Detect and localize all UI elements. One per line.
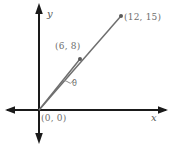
angle-theta-label: θ [72, 80, 77, 88]
diagram-canvas [0, 0, 173, 147]
x-axis-right-arrowhead [158, 106, 168, 114]
y-axis-up-arrowhead [35, 3, 43, 14]
x-axis-label: x [151, 113, 157, 123]
origin-label: (0, 0) [41, 113, 66, 123]
point-label-12-15: (12, 15) [124, 12, 161, 22]
ray-to-point-12-15 [39, 16, 121, 110]
vector-angle-diagram: (12, 15) (6, 8) (0, 0) θ x y [0, 0, 173, 147]
y-axis-down-arrowhead [35, 133, 43, 144]
point-marker-6-8 [78, 57, 82, 61]
point-label-6-8: (6, 8) [55, 41, 80, 51]
point-marker-12-15 [119, 14, 123, 18]
y-axis-label: y [47, 9, 53, 19]
x-axis-left-arrowhead [5, 106, 15, 114]
